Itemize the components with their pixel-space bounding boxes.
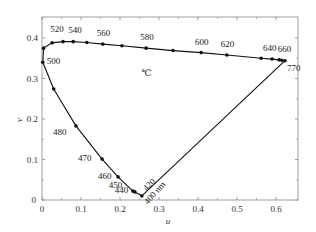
x-tick-label: 0.3 (153, 204, 165, 214)
wavelength-label: 640 (263, 43, 277, 53)
wavelength-markers (41, 40, 287, 198)
wavelength-marker (85, 41, 89, 45)
x-tick-label: 0.1 (75, 204, 86, 214)
wavelength-label: 540 (68, 25, 82, 35)
wavelength-label: 580 (140, 32, 154, 42)
x-tick-label: 0.6 (270, 204, 282, 214)
purple-line (142, 61, 285, 196)
wavelength-marker (171, 49, 175, 53)
y-tick-label: 0.2 (27, 114, 38, 124)
wavelength-marker (199, 51, 203, 55)
wavelength-marker (52, 87, 56, 91)
wavelength-label: 450 (109, 180, 123, 190)
y-tick-label: 0.1 (27, 155, 38, 165)
wavelength-marker (71, 40, 75, 44)
spectrum-locus-curve (43, 42, 285, 196)
wavelength-marker (50, 41, 54, 45)
y-tick-label: 0 (32, 195, 37, 205)
wavelength-marker (101, 42, 105, 46)
wavelength-label: 770 (287, 63, 301, 73)
wavelength-label: 660 (278, 44, 292, 54)
x-axis-title: u (166, 216, 171, 226)
y-tick-label: 0.4 (27, 33, 39, 43)
chromaticity-diagram: 00.10.20.30.40.50.6 00.10.20.30.4 400 nm… (0, 0, 316, 232)
wavelength-marker (259, 56, 263, 60)
wavelength-label: 520 (50, 24, 64, 34)
wavelength-label: 460 (98, 171, 112, 181)
wavelength-label: 560 (97, 28, 111, 38)
wavelength-marker (144, 46, 148, 50)
annotation-text: ℃ (141, 68, 151, 78)
x-tick-label: 0.4 (192, 204, 204, 214)
y-axis-ticks: 00.10.20.30.4 (27, 33, 298, 205)
wavelength-label: 600 (195, 37, 209, 47)
wavelength-marker (280, 58, 284, 62)
wavelength-marker (100, 157, 104, 161)
wavelength-label: 500 (47, 56, 61, 66)
wavelength-label: 470 (78, 153, 92, 163)
wavelength-label: 480 (53, 127, 67, 137)
x-tick-label: 0.2 (114, 204, 125, 214)
wavelength-label: 620 (221, 39, 235, 49)
wavelength-marker (270, 57, 274, 61)
wavelength-marker (131, 189, 135, 193)
wavelength-marker (61, 40, 65, 44)
wavelength-marker (120, 44, 124, 48)
wavelength-marker (41, 61, 45, 65)
wavelength-marker (116, 175, 120, 179)
x-tick-label: 0.5 (231, 204, 243, 214)
plot-frame (42, 17, 298, 200)
x-tick-label: 0 (40, 204, 45, 214)
wavelength-marker (74, 124, 78, 128)
wavelength-marker (42, 46, 46, 50)
wavelength-marker (225, 53, 229, 57)
y-axis-title: v (14, 118, 24, 122)
y-tick-label: 0.3 (27, 74, 39, 84)
